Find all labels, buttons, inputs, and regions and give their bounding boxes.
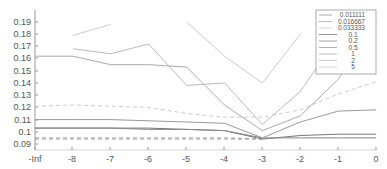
y-tick-label: 0.19 — [13, 17, 31, 27]
x-tick: -3 — [258, 147, 266, 164]
y-tick-label: 0.17 — [13, 41, 31, 51]
x-tick-label: -Inf — [28, 154, 42, 164]
y-tick: 0.17 — [13, 41, 38, 51]
y-tick: 0.09 — [13, 139, 38, 149]
y-tick-label: 0.13 — [13, 90, 31, 100]
x-tick-label: -3 — [258, 154, 266, 164]
series-line — [73, 22, 300, 83]
x-tick: -5 — [182, 147, 190, 164]
y-tick-label: 0.1 — [18, 127, 31, 137]
x-tick-label: -2 — [296, 154, 304, 164]
y-tick-label: 0.18 — [13, 29, 31, 39]
x-tick-label: -8 — [68, 154, 76, 164]
y-tick-label: 0.14 — [13, 78, 31, 88]
x-axis: -Inf -8 -7 -6 -5 -4 -3 -2 -1 0 — [28, 147, 378, 164]
x-tick-label: -7 — [106, 154, 114, 164]
y-tick-label: 0.09 — [13, 139, 31, 149]
y-axis: 0.19 0.18 0.17 0.16 0.15 0.14 0.13 0.12 … — [13, 17, 38, 149]
y-tick: 0.18 — [13, 29, 38, 39]
y-tick: 0.15 — [13, 66, 38, 76]
y-tick: 0.14 — [13, 78, 38, 88]
series-line — [35, 110, 376, 138]
legend: 0.011111 0.016667 0.033333 0.1 0.2 0.5 1… — [316, 10, 376, 74]
x-tick: -1 — [334, 147, 342, 164]
x-tick: -6 — [144, 147, 152, 164]
y-tick: 0.13 — [13, 90, 38, 100]
series-line — [73, 37, 338, 125]
x-tick: 0 — [373, 147, 378, 164]
x-tick: -4 — [220, 147, 228, 164]
y-tick: 0.12 — [13, 102, 38, 112]
y-tick: 0.19 — [13, 17, 38, 27]
series-line — [35, 128, 376, 138]
y-tick: 0.16 — [13, 53, 38, 63]
x-tick: -Inf — [28, 147, 42, 164]
line-chart: 0.19 0.18 0.17 0.16 0.15 0.14 0.13 0.12 … — [0, 0, 387, 169]
y-tick: 0.11 — [14, 115, 38, 125]
y-tick-label: 0.16 — [13, 53, 31, 63]
x-tick: -7 — [106, 147, 114, 164]
x-tick: -2 — [296, 147, 304, 164]
y-tick-label: 0.11 — [14, 115, 31, 125]
y-tick-label: 0.12 — [13, 102, 31, 112]
x-tick: -8 — [68, 147, 76, 164]
x-tick-label: -6 — [144, 154, 152, 164]
series-line — [35, 82, 376, 117]
legend-label: 5 — [351, 63, 355, 70]
y-tick-label: 0.15 — [13, 66, 31, 76]
x-tick-label: -1 — [334, 154, 342, 164]
x-tick-label: -5 — [182, 154, 190, 164]
x-tick-label: 0 — [373, 154, 378, 164]
x-tick-label: -4 — [220, 154, 228, 164]
